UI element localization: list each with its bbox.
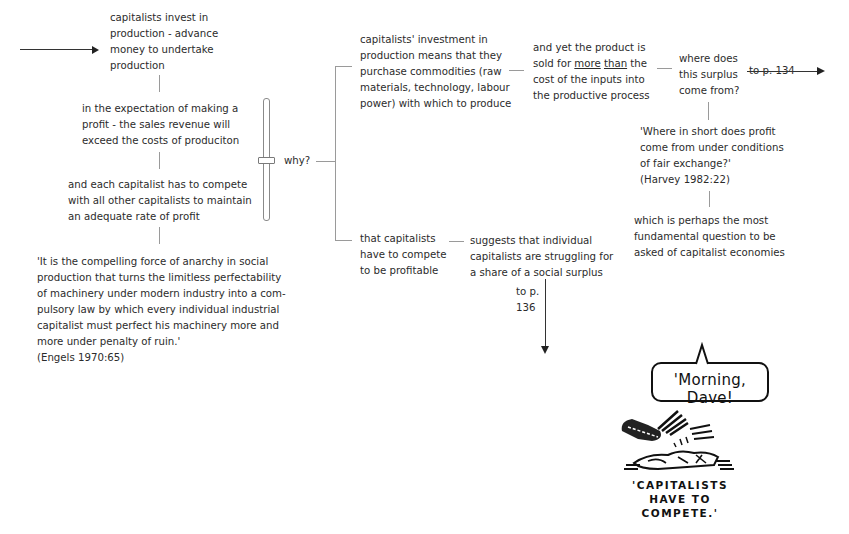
slider-bracket-thumb bbox=[258, 157, 275, 164]
node-struggling: suggests that individual capitalists are… bbox=[470, 233, 613, 281]
connector-purchase-sold bbox=[509, 70, 524, 71]
arrow-to-136-head-icon bbox=[541, 346, 549, 354]
connector-to-have-to-compete bbox=[335, 240, 352, 241]
connector-surplus-harvey bbox=[708, 102, 709, 120]
speech-bubble-text: 'Morning, Dave! bbox=[653, 371, 767, 407]
node-product-sold: and yet the product is sold for more tha… bbox=[533, 40, 650, 104]
node-invest: capitalists invest in production - advan… bbox=[110, 10, 218, 74]
connector-to-purchase bbox=[335, 66, 352, 67]
node-have-to-compete: that capitalists have to compete to be p… bbox=[360, 231, 446, 279]
connector-compete-quote bbox=[159, 227, 160, 244]
incoming-arrow-line bbox=[20, 49, 92, 50]
connector-why-vertical bbox=[335, 66, 336, 240]
arrow-to-134-line bbox=[747, 71, 817, 72]
node-why: why? bbox=[284, 153, 310, 169]
arrow-to-136-line bbox=[545, 279, 546, 346]
connector-invest-expectation bbox=[159, 75, 160, 92]
connector-why bbox=[316, 161, 335, 162]
speech-bubble: 'Morning, Dave! bbox=[651, 362, 769, 402]
connector-compete-struggling bbox=[449, 241, 464, 242]
cartoon-caption: 'CAPITALISTS HAVE TO COMPETE.' bbox=[620, 478, 740, 520]
node-fundamental: which is perhaps the most fundamental qu… bbox=[634, 213, 785, 261]
node-purchase: capitalists' investment in production me… bbox=[360, 32, 511, 112]
node-surplus-question: where does this surplus come from? bbox=[679, 51, 739, 99]
connector-sold-surplus bbox=[657, 68, 672, 69]
product-sold-more: more bbox=[574, 58, 600, 69]
speech-bubble-tail-icon bbox=[690, 342, 720, 366]
connector-harvey-fundamental bbox=[709, 191, 710, 207]
boot-stomping-capitalist-icon bbox=[618, 405, 738, 477]
to-page-136-link[interactable]: to p. 136 bbox=[516, 284, 539, 316]
arrow-to-134-head-icon bbox=[817, 67, 825, 75]
node-expectation: in the expectation of making a profit - … bbox=[82, 101, 239, 149]
product-sold-than: than bbox=[604, 58, 627, 69]
node-compete: and each capitalist has to compete with … bbox=[68, 177, 252, 225]
node-harvey-quote: 'Where in short does profit come from un… bbox=[640, 124, 784, 188]
node-engels-quote: 'It is the compelling force of anarchy i… bbox=[37, 254, 286, 366]
connector-expectation-compete bbox=[159, 152, 160, 169]
incoming-arrowhead-icon bbox=[92, 46, 99, 54]
